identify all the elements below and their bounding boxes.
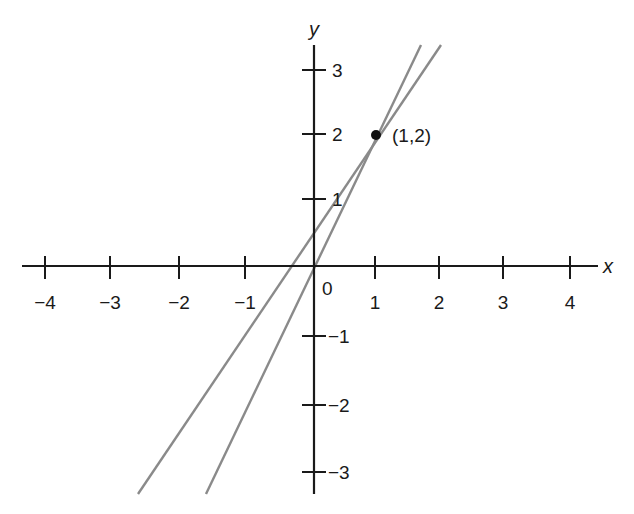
x-tick-label: −4: [34, 292, 56, 313]
x-tick-label: −1: [234, 292, 256, 313]
y-axis-label: y: [307, 18, 320, 40]
y-tick-label: 2: [332, 124, 343, 145]
x-tick-label: 4: [565, 292, 576, 313]
x-tick-label: 2: [434, 292, 445, 313]
x-tick-label: −3: [99, 292, 121, 313]
x-axis-label: x: [602, 255, 614, 277]
line-shallow: [138, 45, 441, 494]
x-tick-label: −2: [168, 292, 190, 313]
x-ticks: [45, 256, 570, 279]
y-tick-label: 1: [332, 189, 343, 210]
origin-label: 0: [322, 278, 333, 299]
point-label: (1,2): [392, 125, 431, 146]
y-tick-label: −2: [328, 395, 350, 416]
y-tick-label: 3: [332, 60, 343, 81]
coordinate-plane: −4 −3 −2 −1 1 2 3 4 0 3 2 1 −1 −2 −3 x y…: [0, 0, 634, 514]
y-tick-label: −3: [328, 462, 350, 483]
y-tick-label: −1: [328, 326, 350, 347]
point-marker: [371, 130, 381, 140]
x-tick-label: 1: [370, 292, 381, 313]
x-tick-label: 3: [498, 292, 509, 313]
